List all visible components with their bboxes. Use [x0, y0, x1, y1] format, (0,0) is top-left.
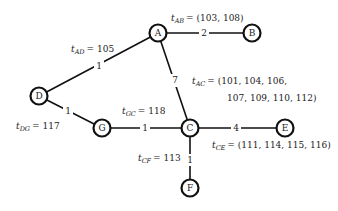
annotation-t-gc: tGC= 118 — [122, 106, 166, 118]
node-d: D — [31, 88, 48, 105]
node-label: D — [35, 91, 42, 101]
node-a: A — [150, 25, 167, 42]
annotation-t-ab: tAB= (103, 108) — [171, 13, 244, 25]
weight-d-g: 1 — [63, 106, 73, 118]
node-e: E — [277, 120, 294, 137]
weight-g-c: 1 — [140, 122, 150, 134]
node-label: F — [187, 183, 193, 193]
node-c: C — [182, 120, 199, 137]
weight-label: 2 — [201, 28, 207, 38]
annotation-t-ad: tAD= 105 — [71, 44, 114, 56]
weight-label: 1 — [96, 61, 102, 71]
node-f: F — [182, 180, 199, 197]
weight-label: 7 — [172, 75, 178, 85]
annotation-t-ac-cont: 107, 109, 110, 112) — [227, 93, 316, 103]
node-label: E — [282, 123, 289, 133]
weight-label: 4 — [233, 123, 239, 133]
annotation-t-ac: tAC= (101, 104, 106, — [192, 76, 287, 88]
weight-label: 1 — [187, 155, 193, 165]
weight-label: 1 — [142, 123, 148, 133]
node-b: B — [244, 25, 261, 42]
node-g: G — [94, 120, 111, 137]
node-label: B — [249, 28, 256, 38]
weight-c-e: 4 — [231, 122, 241, 134]
node-label: C — [187, 123, 194, 133]
graph-diagram: 2 1 7 1 1 4 1 A B C D E — [0, 0, 338, 211]
node-label: A — [154, 28, 162, 38]
weight-a-d: 1 — [94, 60, 104, 72]
weight-c-f: 1 — [185, 154, 195, 166]
weight-a-c: 7 — [170, 74, 180, 87]
annotation-t-dg: tDG= 117 — [16, 121, 60, 133]
annotation-t-cf: tCF= 113 — [138, 153, 181, 165]
node-label: G — [98, 123, 105, 133]
annotation-t-ce: tCE= (111, 114, 115, 116) — [212, 140, 331, 152]
weight-a-b: 2 — [199, 27, 209, 39]
weight-label: 1 — [65, 106, 71, 116]
